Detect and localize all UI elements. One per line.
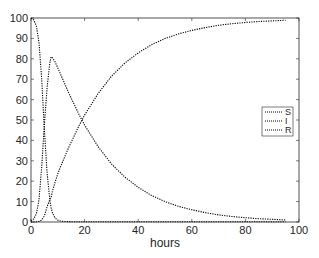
x-tick-label: 60 <box>186 224 198 236</box>
y-tick-label: 80 <box>16 53 28 65</box>
x-tick-label: 80 <box>239 224 251 236</box>
x-tick-label: 0 <box>28 224 34 236</box>
y-tick-label: 90 <box>16 32 28 44</box>
y-tick-label: 40 <box>16 134 28 146</box>
y-tick-label: 50 <box>16 114 28 126</box>
series-line-r <box>31 20 286 222</box>
x-axis-label: hours <box>150 236 180 250</box>
y-tick-label: 100 <box>10 12 28 24</box>
sir-line-chart: 020406080100 0102030405060708090100 hour… <box>0 0 319 258</box>
series-line-i <box>31 57 286 221</box>
x-tick-label: 20 <box>78 224 90 236</box>
y-tick-label: 0 <box>22 216 28 228</box>
series-line-s <box>31 18 286 222</box>
axes-box <box>31 18 299 222</box>
y-tick-label: 30 <box>16 155 28 167</box>
y-tick-label: 20 <box>16 175 28 187</box>
y-axis-ticks: 0102030405060708090100 <box>10 12 299 228</box>
x-tick-label: 40 <box>132 224 144 236</box>
legend: SIR <box>262 107 293 136</box>
y-tick-label: 70 <box>16 73 28 85</box>
plot-lines <box>31 18 286 222</box>
x-tick-label: 100 <box>290 224 308 236</box>
legend-label-r: R <box>285 125 292 135</box>
y-tick-label: 60 <box>16 94 28 106</box>
y-tick-label: 10 <box>16 196 28 208</box>
